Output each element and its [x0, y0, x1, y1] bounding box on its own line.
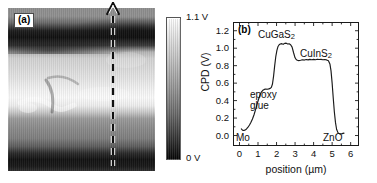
x-tick-label: 0: [232, 149, 246, 159]
x-tick-label: 6: [344, 149, 358, 159]
panel-a-label: (a): [14, 13, 34, 28]
cpd-colorbar: 1.1 V 0 V: [166, 17, 182, 160]
y-tick-label: 0.0: [196, 131, 229, 141]
cpd-colorbar-texture: [168, 19, 181, 160]
annotation-epoxy-glue: epoxyglue: [250, 89, 277, 111]
figure-root: (a) 1.1 V 0 V (b) 0.00.20.40.60.81.01.2 …: [0, 0, 377, 183]
annotation-cuins2: CuInS2: [300, 48, 332, 61]
axis-ticks: [233, 22, 359, 146]
annotation-cugas2: CuGaS2: [258, 29, 295, 42]
x-tick-label: 1: [251, 149, 265, 159]
cpd-colorbar-gradient: [166, 17, 181, 160]
cpd-map-image: [8, 8, 155, 171]
y-tick-label: 0.2: [196, 113, 229, 123]
y-tick-label: 1.2: [196, 26, 229, 36]
x-tick-label: 5: [325, 149, 339, 159]
y-axis-title: CPD (V): [199, 39, 211, 105]
annotation-mo: Mo: [236, 132, 250, 143]
panel-b-label: (b): [238, 24, 251, 36]
panel-b-line-plot: (b) 0.00.20.40.60.81.01.2 0123456 CPD (V…: [196, 4, 374, 181]
panel-a-cpd-map: (a): [8, 8, 155, 171]
x-tick-label: 4: [307, 149, 321, 159]
x-tick-label: 2: [270, 149, 284, 159]
x-tick-label: 3: [288, 149, 302, 159]
plot-drawing-area: [233, 22, 359, 146]
x-axis-title: position (µm): [233, 163, 359, 175]
annotation-zno: ZnO: [323, 132, 342, 143]
